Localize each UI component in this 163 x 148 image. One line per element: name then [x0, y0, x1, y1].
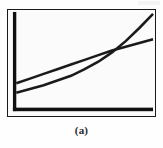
scan-artifact: [138, 1, 160, 5]
plot-svg: [8, 10, 155, 116]
x-axis-line: [13, 108, 153, 112]
y-axis-line: [13, 12, 16, 111]
plot-frame: [7, 9, 156, 117]
figure-caption: (a): [0, 124, 163, 136]
plot-surface: [8, 10, 155, 116]
figure-panel: (a): [0, 0, 163, 148]
plot-background: [8, 10, 155, 116]
